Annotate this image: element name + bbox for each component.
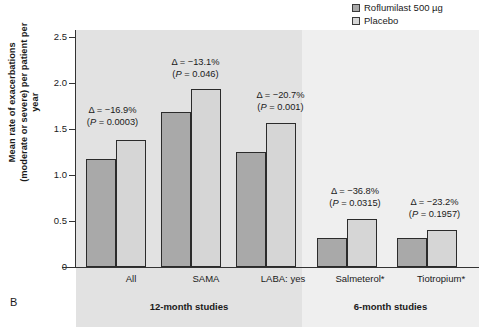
y-axis-title-line2: (moderate or severe) per patient per yea… — [18, 23, 40, 182]
x-axis-label-band: All SAMA LABA: yes Salmeterol* Tiotropiu… — [62, 268, 479, 327]
bar-laba-yes-placebo — [266, 123, 296, 267]
panel-letter: B — [10, 296, 17, 308]
annotation-sama-delta: Δ = −13.1% — [143, 57, 248, 69]
legend-item-roflumilast: Roflumilast 500 µg — [352, 1, 479, 14]
y-tick-label-0_5: 0.5 — [39, 216, 67, 226]
x-category-label-salmeterol: Salmeterol* — [320, 273, 400, 285]
bar-laba-yes-roflumilast — [236, 152, 266, 267]
legend-label-roflumilast: Roflumilast 500 µg — [364, 1, 443, 14]
bar-salmeterol-placebo — [347, 219, 377, 267]
legend-swatch-roflumilast — [352, 4, 360, 12]
bar-salmeterol-roflumilast — [317, 238, 347, 267]
chart-legend: Roflumilast 500 µg Placebo — [352, 1, 479, 27]
y-tick-label-1_0-wrap: 1.0 — [36, 170, 67, 180]
group-label-12-month: 12-month studies — [76, 301, 302, 313]
x-category-label-tiotropium: Tiotropium* — [402, 273, 479, 285]
legend-swatch-placebo — [352, 17, 360, 25]
y-tick-label-2_5-wrap: 2.5 — [36, 32, 67, 42]
annotation-laba-yes-delta: Δ = −20.7% — [228, 90, 333, 102]
annotation-all-pvalue: (P = 0.0003) — [60, 117, 165, 129]
x-category-label-all: All — [101, 273, 161, 285]
y-axis-title-line1: Mean rate of exacerbations — [7, 42, 17, 162]
bar-tiotropium-roflumilast — [397, 238, 427, 267]
annotation-sama: Δ = −13.1% (P = 0.046) — [143, 57, 248, 80]
bar-all-placebo — [116, 140, 146, 267]
y-tick-label-1_0: 1.0 — [39, 170, 67, 180]
annotation-all-delta: Δ = −16.9% — [60, 105, 165, 117]
group-label-6-month: 6-month studies — [302, 301, 479, 313]
y-axis-line — [75, 30, 76, 268]
legend-item-placebo: Placebo — [352, 14, 479, 27]
annotation-tiotropium-delta: Δ = −23.2% — [382, 197, 479, 209]
bar-sama-roflumilast — [161, 112, 191, 267]
annotation-tiotropium-pvalue: (P = 0.1957) — [382, 209, 479, 221]
y-tick-label-0_5-wrap: 0.5 — [36, 216, 67, 226]
annotation-sama-pvalue: (P = 0.046) — [143, 69, 248, 81]
annotation-laba-yes: Δ = −20.7% (P = 0.001) — [228, 90, 333, 113]
bar-all-roflumilast — [86, 159, 116, 267]
y-tick-label-2_5: 2.5 — [39, 32, 67, 42]
x-category-label-sama: SAMA — [176, 273, 236, 285]
figure-panel-b: Roflumilast 500 µg Placebo Mean rate of … — [0, 0, 479, 327]
y-tick-label-2_0-wrap: 2.0 — [36, 78, 67, 88]
annotation-salmeterol-delta: Δ = −36.8% — [300, 186, 410, 198]
annotation-all: Δ = −16.9% (P = 0.0003) — [60, 105, 165, 128]
bar-sama-placebo — [191, 89, 221, 268]
y-tick-label-2_0: 2.0 — [39, 78, 67, 88]
legend-label-placebo: Placebo — [364, 14, 398, 27]
x-category-label-laba-yes: LABA: yes — [248, 273, 318, 285]
annotation-laba-yes-pvalue: (P = 0.001) — [228, 102, 333, 114]
annotation-tiotropium: Δ = −23.2% (P = 0.1957) — [382, 197, 479, 220]
bar-tiotropium-placebo — [427, 230, 457, 267]
